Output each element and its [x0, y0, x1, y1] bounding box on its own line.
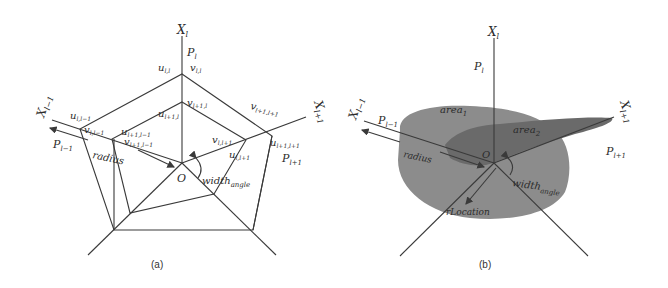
label-v-l-lp1: vl,l+1	[212, 134, 232, 146]
caption-a: (a)	[151, 259, 163, 270]
label-u-lp1-lp1: ul+1,l+1	[270, 137, 300, 149]
label-x-l-b: Xl	[487, 25, 500, 41]
label-origin-b: O	[482, 149, 490, 160]
label-x-l-minus-1: Xl−1	[33, 93, 56, 121]
axis-lower-left	[88, 163, 182, 255]
width-angle-arc	[196, 158, 201, 178]
panel-b: Xl Pl Xl−1 Pl−1 Xl+1 Pl+1 area1 area2 O …	[345, 25, 637, 270]
label-v-lp1-l: vl+1,l	[187, 97, 207, 109]
radius-arrow-outer-b	[362, 130, 400, 142]
edge-right-vertical	[253, 136, 272, 230]
label-rlocation: rLocation	[446, 207, 490, 217]
label-p-l-plus-1-b: Pl+1	[605, 145, 626, 160]
label-p-l-minus-1-b: Pl−1	[377, 114, 398, 129]
label-width-angle: widthangle	[202, 175, 250, 189]
label-x-l-plus-1-b: Xl+1	[615, 98, 638, 126]
label-origin: O	[177, 172, 186, 185]
figure-canvas: Xl Pl ul,l vl,l Xl−1 Pl−1 ul,l−1 vl,l−1 …	[0, 0, 668, 288]
label-p-l-b: Pl	[473, 60, 484, 75]
label-u-lp1-l: ul+1,l	[158, 108, 179, 120]
label-x-l-plus-1: Xl+1	[309, 98, 332, 126]
label-radius: radius	[92, 149, 126, 166]
label-x-l: Xl	[176, 23, 189, 39]
label-u-ll: ul,l	[158, 62, 170, 74]
panel-a: Xl Pl ul,l vl,l Xl−1 Pl−1 ul,l−1 vl,l−1 …	[33, 23, 331, 270]
label-p-l: Pl	[186, 46, 197, 61]
caption-b: (b)	[479, 259, 491, 270]
label-p-l-plus-1: Pl+1	[281, 152, 302, 167]
label-u-l-lm1: ul,l−1	[70, 110, 91, 122]
label-v-l-lm1: vl,l−1	[84, 124, 104, 136]
label-v-lp1-lp1: vl+1,l+1	[249, 100, 280, 118]
label-v-ll: vl,l	[190, 62, 201, 74]
label-x-l-minus-1-b: Xl−1	[345, 95, 368, 123]
label-p-l-minus-1: Pl−1	[52, 138, 73, 153]
